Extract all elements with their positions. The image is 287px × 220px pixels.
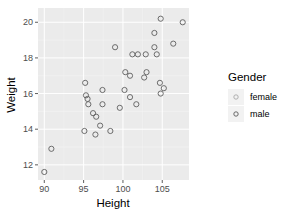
x-tick-label: 105 — [155, 184, 170, 194]
x-axis: 9095100105 — [39, 180, 169, 194]
y-axis: 1214161820 — [23, 17, 38, 170]
y-tick-label: 14 — [23, 124, 33, 134]
y-tick-label: 18 — [23, 53, 33, 63]
legend-title: Gender — [228, 71, 267, 83]
x-tick-label: 95 — [79, 184, 89, 194]
y-tick-label: 20 — [23, 17, 33, 27]
y-tick-label: 16 — [23, 89, 33, 99]
y-tick-label: 12 — [23, 160, 33, 170]
x-tick-label: 100 — [115, 184, 130, 194]
x-axis-title: Height — [96, 197, 130, 209]
legend: Gender femalemale — [228, 71, 277, 122]
legend-label-female: female — [250, 92, 277, 102]
scatter-chart: 9095100105 1214161820 Height Weight Gend… — [0, 0, 287, 220]
x-tick-label: 90 — [39, 184, 49, 194]
legend-label-male: male — [250, 109, 270, 119]
plot-panel — [38, 8, 189, 180]
y-axis-title: Weight — [5, 76, 17, 112]
